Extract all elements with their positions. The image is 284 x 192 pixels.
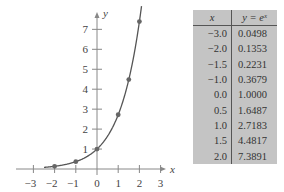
cell-y: 4.4817	[232, 133, 278, 148]
cell-x: 1.5	[193, 133, 232, 148]
cell-x: −1.5	[193, 57, 232, 72]
x-tick-label: 2	[137, 177, 143, 189]
cell-y: 0.2231	[232, 57, 278, 72]
axes	[16, 12, 166, 175]
cell-y: 1.6487	[232, 102, 278, 117]
values-table: x y = eˣ −3.00.0498−2.00.1353−1.50.2231−…	[193, 10, 277, 164]
table-row: −1.00.3679	[193, 72, 277, 87]
cell-y: 2.7183	[232, 118, 278, 133]
table-row: 2.07.3891	[193, 148, 277, 163]
y-tick-label: 3	[83, 103, 89, 115]
header-x: x	[193, 10, 232, 26]
x-tick-label: −1	[67, 177, 79, 189]
table-row: −1.50.2231	[193, 57, 277, 72]
cell-y: 0.3679	[232, 72, 278, 87]
cell-x: −1.0	[193, 72, 232, 87]
cell-y: 0.0498	[232, 26, 278, 42]
table-row: 0.01.0000	[193, 87, 277, 102]
data-point	[95, 147, 100, 152]
x-tick-label: −2	[46, 177, 58, 189]
data-point	[126, 77, 131, 82]
x-tick-label: 3	[158, 177, 164, 189]
y-tick-label: 2	[83, 123, 89, 135]
data-point	[73, 159, 78, 164]
y-tick-label: 6	[83, 43, 89, 55]
y-tick-label: 7	[83, 23, 89, 35]
table-row: 1.02.7183	[193, 118, 277, 133]
y-tick-label: 5	[83, 63, 89, 75]
table-row: −3.00.0498	[193, 26, 277, 42]
y-axis-label: y	[102, 7, 108, 19]
cell-y: 7.3891	[232, 148, 278, 163]
table-row: 0.51.6487	[193, 102, 277, 117]
header-y: y = eˣ	[232, 10, 278, 26]
cell-x: 0.0	[193, 87, 232, 102]
table-row: −2.00.1353	[193, 41, 277, 56]
data-point	[137, 19, 142, 24]
cell-x: −2.0	[193, 41, 232, 56]
cell-x: 2.0	[193, 148, 232, 163]
data-point	[52, 164, 57, 169]
data-point	[116, 112, 121, 117]
exp-curve	[44, 6, 142, 167]
cell-x: 0.5	[193, 102, 232, 117]
table-row: 1.54.4817	[193, 133, 277, 148]
y-axis-arrow-icon	[95, 12, 100, 18]
tick-labels: −3−2−101231234567yx	[25, 7, 175, 189]
x-tick-label: 1	[115, 177, 121, 189]
y-tick-label: 4	[83, 83, 89, 95]
cell-x: 1.0	[193, 118, 232, 133]
table-header-row: x y = eˣ	[193, 10, 277, 26]
x-tick-label: 0	[94, 177, 100, 189]
cell-y: 0.1353	[232, 41, 278, 56]
cell-x: −3.0	[193, 26, 232, 42]
x-tick-label: −3	[25, 177, 37, 189]
x-axis-label: x	[169, 163, 175, 175]
y-tick-label: 1	[83, 143, 89, 155]
cell-y: 1.0000	[232, 87, 278, 102]
